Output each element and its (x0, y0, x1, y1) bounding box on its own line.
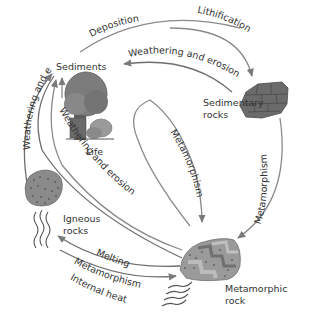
igneous-rock-icon (25, 170, 62, 206)
sedimentary-rocks-label-1: Sedimentary (203, 97, 264, 108)
lithification-label: Lithification (197, 4, 254, 34)
metamorphism-inner-label: Metamorphism (168, 127, 206, 198)
rock-cycle-diagram: Sediments Life Sedimentary rocks Igneous… (0, 0, 310, 318)
heat-waves-icon (34, 210, 50, 248)
deposition-label: Deposition (87, 12, 139, 38)
weathering-left-label: Weathering and erosion (0, 0, 54, 150)
metamorphic-rock-label-1: Metamorphic (225, 283, 287, 294)
metamorphic-rock-icon (180, 239, 240, 281)
igneous-rocks-label-1: Igneous (63, 213, 101, 224)
sedimentary-rocks-label-2: rocks (203, 109, 228, 120)
heat-waves-icon-2 (162, 282, 192, 306)
melting-label: Melting (95, 246, 131, 269)
metamorphism-right-label: Metamorphism (252, 154, 270, 225)
metamorphic-rock-label-2: rock (225, 295, 246, 306)
igneous-rocks-label-2: rocks (63, 225, 88, 236)
sediments-label: Sediments (56, 61, 106, 72)
